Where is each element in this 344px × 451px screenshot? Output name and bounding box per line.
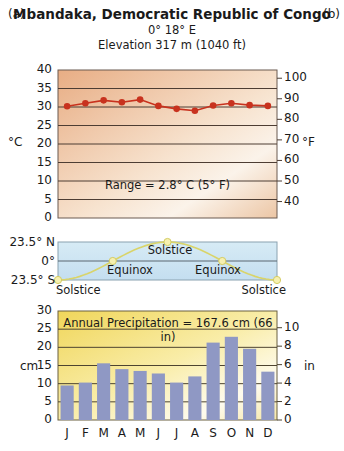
month-label: A <box>113 426 131 440</box>
annual-precipitation-note: Annual Precipitation = 167.6 cm (66 in) <box>62 316 274 344</box>
precipitation-bar <box>243 349 256 420</box>
precipitation-bar <box>170 383 183 420</box>
label-solstice-december-left: Solstice <box>56 283 106 297</box>
fahrenheit-tick-label: 50 <box>284 173 299 187</box>
precipitation-bar <box>225 337 238 420</box>
month-label: O <box>222 426 240 440</box>
temperature-point <box>173 106 180 113</box>
precipitation-bar <box>152 373 165 420</box>
celsius-tick-label: 30 <box>22 99 52 113</box>
fahrenheit-tick-label: 80 <box>284 111 299 125</box>
cm-tick-label: 30 <box>22 303 52 317</box>
month-label: J <box>149 426 167 440</box>
inch-tick-label: 8 <box>284 338 292 352</box>
precipitation-bar <box>115 369 128 420</box>
precipitation-bar <box>79 383 92 420</box>
temperature-point <box>265 103 272 110</box>
fahrenheit-tick-label: 100 <box>284 70 307 84</box>
fahrenheit-tick-label: 60 <box>284 152 299 166</box>
precipitation-bar <box>97 363 110 420</box>
temperature-point <box>192 107 199 114</box>
celsius-tick-label: 10 <box>22 173 52 187</box>
inch-tick-label: 10 <box>284 320 299 334</box>
celsius-tick-label: 15 <box>22 155 52 169</box>
cm-tick-label: 15 <box>22 358 52 372</box>
fahrenheit-tick-label: 40 <box>284 194 299 208</box>
precipitation-bar <box>61 385 74 420</box>
celsius-tick-label: 0 <box>22 210 52 224</box>
celsius-tick-label: 25 <box>22 118 52 132</box>
fahrenheit-tick-label: 90 <box>284 91 299 105</box>
temperature-point <box>155 103 162 110</box>
temperature-point <box>82 100 89 107</box>
cm-tick-label: 10 <box>22 376 52 390</box>
celsius-tick-label: 5 <box>22 192 52 206</box>
temperature-point <box>119 99 126 106</box>
celsius-tick-label: 35 <box>22 81 52 95</box>
inch-tick-label: 6 <box>284 357 292 371</box>
celsius-tick-label: 40 <box>22 62 52 76</box>
temperature-point <box>137 96 144 103</box>
month-label: N <box>241 426 259 440</box>
temperature-point <box>246 102 253 109</box>
inch-tick-label: 2 <box>284 394 292 408</box>
inch-unit-label: in <box>304 359 315 373</box>
temperature-point <box>210 102 217 109</box>
sun-tick-south: 23.5° S <box>2 273 55 287</box>
sun-tick-north: 23.5° N <box>2 235 55 249</box>
inch-tick-label: 4 <box>284 375 292 389</box>
label-solstice-december-right: Solstice <box>236 283 286 297</box>
temperature-point <box>100 97 107 104</box>
month-label: A <box>186 426 204 440</box>
cm-tick-label: 25 <box>22 321 52 335</box>
month-label: D <box>259 426 277 440</box>
cm-tick-label: 0 <box>22 412 52 426</box>
precipitation-bar <box>188 376 201 420</box>
fahrenheit-unit-label: °F <box>302 135 315 149</box>
month-label: M <box>131 426 149 440</box>
temperature-point <box>64 103 71 110</box>
celsius-unit-label: °C <box>8 135 22 149</box>
celsius-tick-label: 20 <box>22 136 52 150</box>
month-label: S <box>204 426 222 440</box>
precipitation-bar <box>261 372 274 420</box>
inch-tick-label: 0 <box>284 412 292 426</box>
cm-tick-label: 20 <box>22 339 52 353</box>
month-label: J <box>58 426 76 440</box>
month-label: F <box>76 426 94 440</box>
label-equinox-september: Equinox <box>188 263 248 277</box>
temperature-chart <box>58 70 282 218</box>
precipitation-bar <box>207 343 220 420</box>
temperature-range-note: Range = 2.8° C (5° F) <box>58 178 277 192</box>
month-label: J <box>168 426 186 440</box>
temperature-point <box>228 100 235 107</box>
label-equinox-march: Equinox <box>100 263 160 277</box>
month-label: M <box>95 426 113 440</box>
precipitation-bar <box>134 371 147 420</box>
label-solstice-june: Solstice <box>140 243 200 257</box>
sun-tick-equator: 0° <box>2 254 55 268</box>
cm-tick-label: 5 <box>22 394 52 408</box>
fahrenheit-tick-label: 70 <box>284 132 299 146</box>
